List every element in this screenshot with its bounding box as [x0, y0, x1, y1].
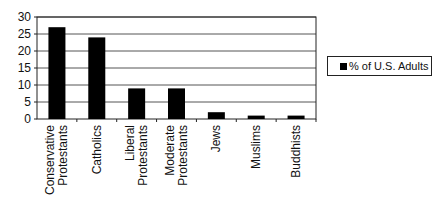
x-tick-label: Buddhists [289, 125, 303, 178]
x-tick-label: Muslims [249, 125, 263, 169]
svg-text:Liberal: Liberal [123, 125, 137, 161]
bar [88, 37, 105, 119]
svg-text:Jews: Jews [209, 125, 223, 152]
bar [48, 27, 65, 119]
svg-text:Conservative: Conservative [43, 125, 57, 195]
x-tick-label: ConservativeProtestants [43, 125, 70, 195]
y-tick-label: 20 [18, 44, 32, 58]
legend-swatch [340, 63, 347, 70]
svg-text:Buddhists: Buddhists [289, 125, 303, 178]
svg-text:Protestants: Protestants [56, 125, 70, 186]
svg-text:Catholics: Catholics [90, 125, 104, 174]
svg-text:Protestants: Protestants [176, 125, 190, 186]
svg-text:Protestants: Protestants [136, 125, 150, 186]
y-tick-label: 25 [18, 27, 32, 41]
y-tick-label: 0 [24, 112, 31, 126]
y-tick-label: 10 [18, 78, 32, 92]
bar [248, 116, 265, 119]
chart-legend: % of U.S. Adults [327, 56, 432, 76]
bar [288, 116, 305, 119]
bar [168, 88, 185, 119]
bar [208, 112, 225, 119]
x-tick-label: ModerateProtestants [163, 125, 190, 186]
y-tick-label: 15 [18, 61, 32, 75]
svg-text:Muslims: Muslims [249, 125, 263, 169]
y-tick-label: 5 [24, 95, 31, 109]
x-tick-label: Catholics [90, 125, 104, 174]
x-tick-label: LiberalProtestants [123, 125, 150, 186]
bar-chart: 051015202530ConservativeProtestantsCatho… [0, 0, 448, 199]
y-tick-label: 30 [18, 10, 32, 24]
x-tick-label: Jews [209, 125, 223, 152]
bar [128, 88, 145, 119]
legend-label: % of U.S. Adults [349, 60, 428, 72]
svg-text:Moderate: Moderate [163, 125, 177, 176]
